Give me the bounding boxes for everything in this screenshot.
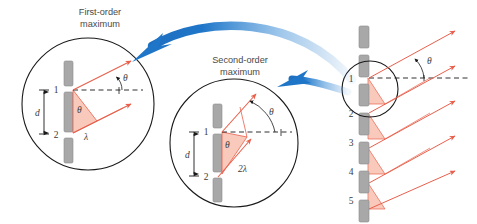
slit-bar — [359, 84, 369, 106]
slit-bar — [359, 26, 369, 48]
grating-slit-label-5: 5 — [349, 196, 354, 206]
first-order-magnifier-circle — [22, 38, 154, 170]
grating-slit-label-2: 2 — [349, 109, 354, 119]
slit-bar — [213, 178, 222, 202]
slit-spacing-label: d — [35, 108, 40, 118]
path-difference-label: 2λ — [238, 164, 247, 174]
slit-label-2: 2 — [204, 172, 209, 182]
theta-label-vertex: θ — [225, 140, 230, 150]
path-difference-label: λ — [83, 132, 88, 142]
figure-canvas: First-order maximum θ θ λ — [0, 0, 477, 224]
slit-bar — [64, 92, 73, 132]
theta-label-grating: θ — [427, 56, 432, 66]
theta-label-ray: θ — [269, 107, 274, 117]
slit-bar — [359, 142, 369, 164]
second-order-title-line2: maximum — [220, 67, 260, 77]
slit-bar — [213, 104, 222, 128]
grating-slit-label-3: 3 — [349, 138, 354, 148]
slit-bar — [64, 61, 73, 86]
theta-label-vertex: θ — [77, 105, 82, 115]
slit-bar — [359, 171, 369, 193]
slit-bar — [359, 200, 369, 222]
slit-bar — [64, 138, 73, 163]
slit-bar — [213, 134, 222, 172]
slit-label-1: 1 — [204, 127, 209, 137]
slit-bar — [359, 55, 369, 77]
diffraction-grating-figure: First-order maximum θ θ λ — [0, 0, 477, 224]
second-order-title-line1: Second-order — [212, 55, 268, 65]
slit-label-2: 2 — [54, 130, 59, 140]
slit-label-1: 1 — [54, 85, 59, 95]
theta-label-ray: θ — [123, 73, 128, 83]
slit-spacing-label: d — [185, 150, 190, 160]
first-order-title-line2: maximum — [80, 19, 120, 29]
grating-slit-label-4: 4 — [349, 167, 354, 177]
first-order-title-line1: First-order — [79, 7, 121, 17]
